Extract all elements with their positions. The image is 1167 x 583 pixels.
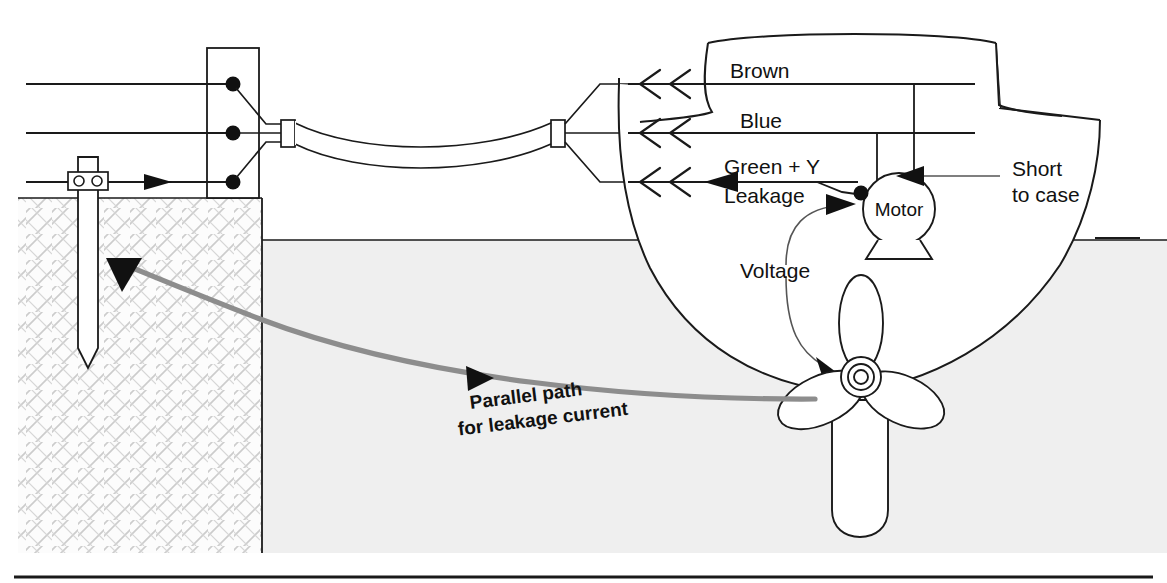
terminal-live xyxy=(226,77,241,92)
propeller-hub-inner xyxy=(854,370,868,384)
earth-return-arrow xyxy=(144,174,172,190)
clamp-bolt-left xyxy=(74,176,84,186)
skeg-rudder xyxy=(832,400,888,537)
terminal-earth xyxy=(226,175,241,190)
shore-supply-lines xyxy=(26,84,233,182)
leakage-label: Leakage xyxy=(724,184,805,207)
motor-mount xyxy=(866,240,932,259)
shore-power-cable xyxy=(281,120,565,168)
land-region xyxy=(18,198,262,553)
blue-label: Blue xyxy=(740,109,782,132)
brown-label: Brown xyxy=(730,59,790,82)
green-yellow-label: Green + Y xyxy=(724,155,820,178)
diagram-stage: Motor xyxy=(0,0,1167,583)
earth-bond-node xyxy=(854,186,869,201)
short-to-case-label-line1: Short xyxy=(1012,157,1062,180)
motor-label: Motor xyxy=(875,199,924,220)
clamp-bolt-right xyxy=(92,176,102,186)
voltage-label: Voltage xyxy=(740,259,810,282)
short-to-case-label-line2: to case xyxy=(1012,183,1080,206)
terminal-neutral xyxy=(226,126,241,141)
shore-power-leakage-diagram: Motor xyxy=(0,0,1167,583)
